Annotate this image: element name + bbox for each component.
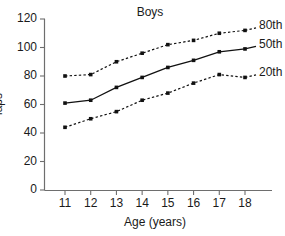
x-tick-label: 14 [135,196,149,210]
y-tick-label: 100 [17,40,37,54]
data-point-80th-13 [115,60,119,64]
data-point-80th-15 [166,43,170,47]
data-point-20th-14 [140,98,144,102]
data-point-80th-11 [63,74,67,78]
data-point-20th-17 [217,73,221,77]
x-tick-label: 18 [238,196,252,210]
y-axis: 020406080100120 [17,11,45,196]
percentile-line-chart: Boys laps 020406080100120 11121314151617… [0,0,285,236]
y-tick-label: 0 [30,182,37,196]
data-point-80th-12 [89,73,93,77]
y-tick-label: 20 [24,154,38,168]
x-tick-label: 13 [110,196,124,210]
series-label-50th: 50th [259,37,282,51]
y-tick-label: 80 [24,68,38,82]
data-point-80th-17 [217,31,221,35]
x-axis: 1112131415161718 [45,190,273,210]
data-point-50th-11 [63,101,67,105]
y-tick-label: 60 [24,97,38,111]
data-point-50th-14 [140,76,144,80]
data-point-20th-11 [63,126,67,130]
y-axis-title: laps [0,93,5,115]
data-point-50th-13 [115,86,119,90]
x-tick-group: 1112131415161718 [59,190,252,210]
chart-title: Boys [137,5,164,19]
data-point-50th-12 [89,98,93,102]
data-point-20th-16 [192,81,196,85]
x-tick-label: 12 [84,196,98,210]
data-point-50th-15 [166,66,170,70]
y-tick-label: 40 [24,125,38,139]
data-point-20th-12 [89,117,93,121]
data-point-50th-17 [217,50,221,54]
x-tick-label: 17 [213,196,227,210]
series-label-20th: 20th [259,65,282,79]
chart-container: Boys laps 020406080100120 11121314151617… [0,0,285,236]
data-point-20th-13 [115,110,119,114]
data-point-80th-16 [192,39,196,43]
x-tick-label: 16 [187,196,201,210]
x-tick-label: 11 [59,196,72,210]
series-label-80th: 80th [259,18,282,32]
data-point-80th-14 [140,51,144,55]
data-point-50th-16 [192,59,196,63]
x-axis-title: Age (years) [124,215,186,229]
y-tick-group: 020406080100120 [17,11,45,196]
x-tick-label: 15 [161,196,175,210]
y-tick-label: 120 [17,11,37,25]
data-series-group [63,28,256,129]
series-label-group: 80th50th20th [259,18,282,79]
data-point-20th-15 [166,91,170,95]
